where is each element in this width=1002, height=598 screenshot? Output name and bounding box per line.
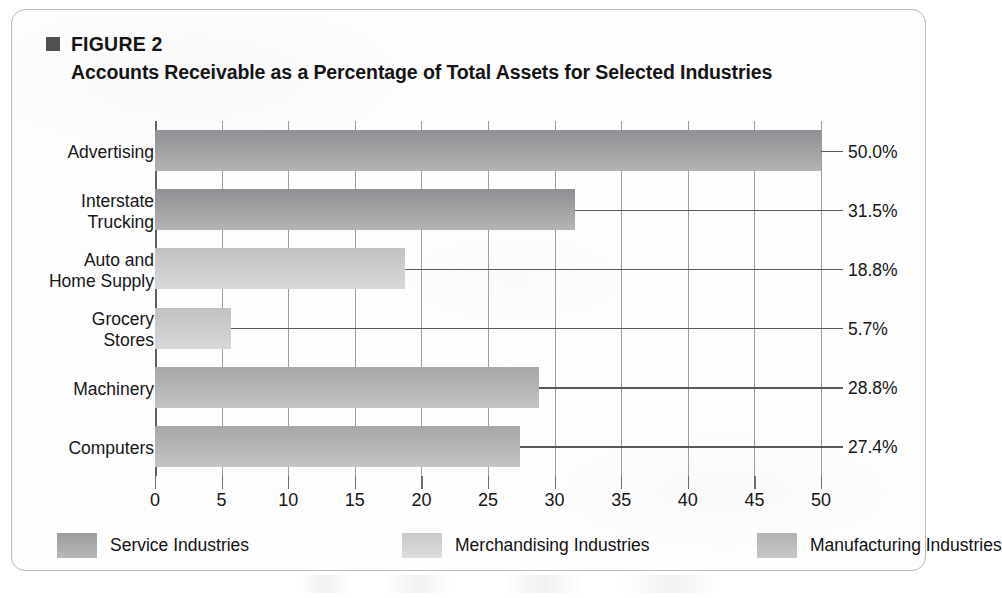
chart-legend: Service IndustriesMerchandising Industri…: [57, 530, 897, 562]
value-label: 5.7%: [848, 319, 922, 340]
x-tick-mark: [355, 476, 356, 489]
gridline: [688, 121, 689, 476]
legend-swatch: [757, 533, 797, 558]
x-tick-label: 0: [150, 490, 160, 511]
gridline: [555, 121, 556, 476]
x-tick-mark: [288, 476, 289, 489]
x-tick-mark: [155, 476, 156, 489]
value-leader-line: [575, 210, 843, 211]
legend-label: Service Industries: [110, 535, 249, 556]
x-tick-mark: [688, 476, 689, 489]
x-tick-mark: [421, 476, 422, 489]
bar: [155, 308, 231, 349]
gridline: [488, 121, 489, 476]
legend-swatch: [402, 533, 442, 558]
gridline: [754, 121, 755, 476]
value-leader-line: [539, 387, 843, 388]
paper-texture-overlay: [12, 10, 925, 570]
value-leader-line: [520, 446, 843, 447]
value-label-axis: 50.0%31.5%18.8%5.7%28.8%27.4%: [848, 123, 926, 475]
x-tick-mark: [621, 476, 622, 489]
x-axis: 05101520253035404550: [155, 476, 821, 516]
legend-swatch: [57, 533, 97, 558]
category-label: Computers: [22, 438, 154, 459]
x-tick-mark: [222, 476, 223, 489]
value-leader-line: [405, 269, 843, 270]
y-axis-line: [155, 121, 157, 476]
bar: [155, 189, 575, 230]
x-tick-label: 5: [217, 490, 227, 511]
value-label: 50.0%: [848, 142, 922, 163]
legend-label: Manufacturing Industries: [810, 535, 1002, 556]
x-tick-label: 25: [478, 490, 498, 511]
legend-item: Merchandising Industries: [402, 530, 650, 560]
figure-frame: FIGURE 2 Accounts Receivable as a Percen…: [11, 9, 926, 571]
x-tick-label: 45: [744, 490, 764, 511]
gridline: [355, 121, 356, 476]
x-tick-label: 20: [411, 490, 431, 511]
category-label: Advertising: [22, 142, 154, 163]
legend-item: Manufacturing Industries: [757, 530, 1002, 560]
bar: [155, 367, 539, 408]
legend-item: Service Industries: [57, 530, 249, 560]
category-axis: AdvertisingInterstate TruckingAuto and H…: [22, 123, 154, 475]
value-leader-line: [231, 328, 843, 329]
category-label: Grocery Stores: [22, 309, 154, 351]
figure-label-row: FIGURE 2: [46, 32, 886, 56]
bar: [155, 248, 405, 289]
x-tick-label: 15: [345, 490, 365, 511]
scan-bleed-artifact: [300, 575, 720, 593]
category-label: Auto and Home Supply: [22, 250, 154, 292]
legend-label: Merchandising Industries: [455, 535, 650, 556]
value-label: 31.5%: [848, 201, 922, 222]
x-tick-label: 50: [811, 490, 831, 511]
x-tick-mark: [488, 476, 489, 489]
plot-area: [155, 121, 821, 476]
x-tick-label: 40: [678, 490, 698, 511]
x-tick-mark: [821, 476, 822, 489]
bar: [155, 426, 520, 467]
value-label: 28.8%: [848, 378, 922, 399]
value-label: 18.8%: [848, 260, 922, 281]
x-tick-label: 35: [611, 490, 631, 511]
chart-container: AdvertisingInterstate TruckingAuto and H…: [12, 10, 927, 572]
x-tick-mark: [555, 476, 556, 489]
value-label: 27.4%: [848, 437, 922, 458]
figure-header: FIGURE 2 Accounts Receivable as a Percen…: [46, 32, 886, 84]
x-tick-mark: [754, 476, 755, 489]
gridline: [621, 121, 622, 476]
x-tick-label: 30: [545, 490, 565, 511]
filled-square-icon: [46, 37, 60, 51]
bar: [155, 130, 821, 171]
figure-number: FIGURE 2: [71, 33, 163, 56]
gridline: [222, 121, 223, 476]
category-label: Machinery: [22, 379, 154, 400]
gridline: [421, 121, 422, 476]
category-label: Interstate Trucking: [22, 191, 154, 233]
x-tick-label: 10: [278, 490, 298, 511]
gridline: [288, 121, 289, 476]
figure-title: Accounts Receivable as a Percentage of T…: [71, 61, 886, 84]
value-leader-line: [821, 151, 843, 152]
gridline: [821, 121, 822, 476]
